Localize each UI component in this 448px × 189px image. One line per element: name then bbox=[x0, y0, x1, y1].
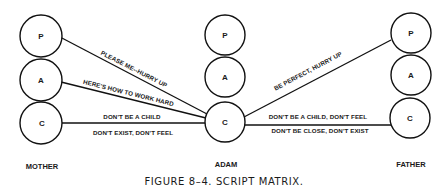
mother-parent-label: P bbox=[38, 32, 44, 41]
message-dont-be-a-child-dont-feel: DON'T BE A CHILD, DON'T FEEL bbox=[269, 113, 368, 120]
line-mother-parent-to-adam-child bbox=[60, 37, 207, 114]
father-ego-states: P A C bbox=[390, 13, 431, 138]
father-child-label: C bbox=[407, 114, 413, 123]
adam-adult-label: A bbox=[222, 73, 228, 82]
adam-child-label: C bbox=[222, 118, 228, 127]
mother-child-label: C bbox=[39, 119, 45, 128]
person-label-father: FATHER bbox=[396, 160, 426, 169]
message-please-me-hurry-up: PLEASE ME--HURRY UP bbox=[100, 49, 169, 89]
person-label-mother: MOTHER bbox=[26, 162, 59, 171]
person-label-adam: ADAM bbox=[215, 160, 238, 169]
message-dont-be-a-child: DON'T BE A CHILD bbox=[103, 113, 161, 120]
father-parent-label: P bbox=[408, 29, 414, 38]
script-matrix-diagram: P A C P A C P A C PLEASE ME--HURRY UP HE… bbox=[0, 0, 448, 189]
mother-ego-states: P A C bbox=[20, 15, 62, 144]
adam-parent-label: P bbox=[222, 31, 228, 40]
father-adult-label: A bbox=[408, 71, 414, 80]
figure-caption: FIGURE 8–4. SCRIPT MATRIX. bbox=[144, 176, 303, 187]
message-dont-be-close-dont-exist: DON'T BE CLOSE, DON'T EXIST bbox=[271, 127, 368, 134]
message-dont-exist-dont-feel: DON'T EXIST, DON'T FEEL bbox=[93, 129, 173, 136]
adam-ego-states: P A C bbox=[205, 15, 245, 142]
line-father-parent-to-adam-child bbox=[244, 40, 391, 117]
mother-adult-label: A bbox=[38, 76, 44, 85]
